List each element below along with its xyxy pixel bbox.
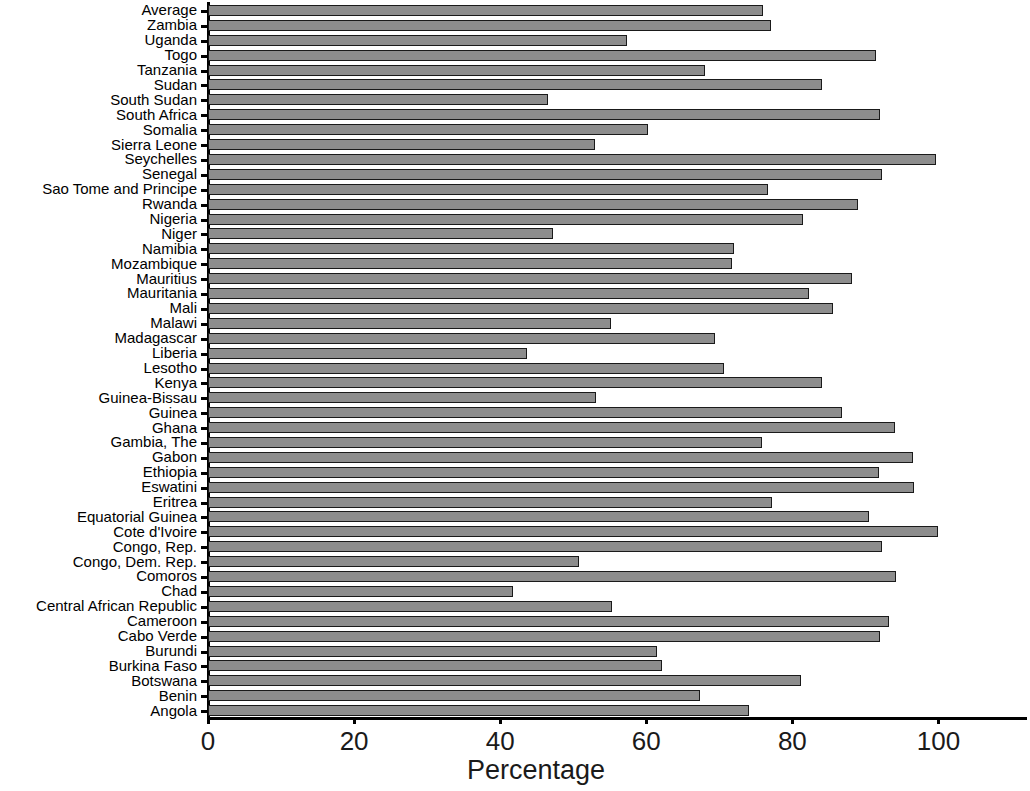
- y-axis-tick: [201, 576, 208, 579]
- y-axis-label: Mali: [169, 300, 197, 315]
- bar-row: [208, 688, 975, 703]
- y-axis-label: Mauritania: [127, 285, 197, 300]
- bar-row: [208, 241, 975, 256]
- x-axis-tick: [353, 717, 356, 724]
- y-axis-label: Senegal: [142, 166, 197, 181]
- y-axis-tick: [201, 427, 208, 430]
- y-axis-label: Eswatini: [141, 479, 197, 494]
- bar-row: [208, 286, 975, 301]
- bar: [208, 169, 882, 180]
- y-axis-tick: [201, 233, 208, 236]
- bar-row: [208, 495, 975, 510]
- y-axis-label: Mauritius: [136, 271, 197, 286]
- y-axis-tick: [201, 323, 208, 326]
- bar-row: [208, 226, 975, 241]
- y-axis-label: Togo: [164, 47, 197, 62]
- bar: [208, 646, 657, 657]
- y-axis-tick: [201, 353, 208, 356]
- bar-row: [208, 524, 975, 539]
- bar: [208, 631, 880, 642]
- bar-row: [208, 420, 975, 435]
- y-axis-label: Guinea-Bissau: [99, 390, 197, 405]
- bar-row: [208, 3, 975, 18]
- y-axis-label: Seychelles: [124, 151, 197, 166]
- x-axis-tick-label: 0: [201, 726, 215, 756]
- bar-row: [208, 375, 975, 390]
- bar-row: [208, 614, 975, 629]
- y-axis-tick: [201, 114, 208, 117]
- y-axis-tick: [201, 263, 208, 266]
- bar-row: [208, 509, 975, 524]
- bar-row: [208, 107, 975, 122]
- y-axis-label: Average: [141, 2, 197, 17]
- y-axis-label: Malawi: [150, 315, 197, 330]
- bar: [208, 348, 527, 359]
- bar: [208, 50, 876, 61]
- y-axis-label: Namibia: [142, 241, 197, 256]
- bar-row: [208, 539, 975, 554]
- bar-row: [208, 167, 975, 182]
- y-axis-tick: [201, 710, 208, 713]
- bar-row: [208, 599, 975, 614]
- bar: [208, 139, 595, 150]
- y-axis-tick: [201, 561, 208, 564]
- y-axis-tick: [201, 531, 208, 534]
- x-axis-tick-label: 20: [340, 726, 369, 756]
- y-axis-label: Guinea: [149, 405, 197, 420]
- y-axis-label: Niger: [161, 226, 197, 241]
- y-axis-label: Sudan: [154, 77, 197, 92]
- y-axis-label: South Africa: [116, 107, 197, 122]
- y-axis-tick: [201, 159, 208, 162]
- y-axis-label: Rwanda: [142, 196, 197, 211]
- y-axis-tick: [201, 695, 208, 698]
- y-axis-label: Nigeria: [149, 211, 197, 226]
- y-axis-label: Sierra Leone: [111, 137, 197, 152]
- x-axis-title: Percentage: [0, 754, 1030, 786]
- y-axis-tick: [201, 10, 208, 13]
- y-axis-label: South Sudan: [110, 92, 197, 107]
- bar-row: [208, 361, 975, 376]
- y-axis-label: Cameroon: [127, 613, 197, 628]
- y-axis-tick: [201, 397, 208, 400]
- y-axis-label: Botswana: [131, 673, 197, 688]
- bar: [208, 660, 662, 671]
- bar-row: [208, 465, 975, 480]
- y-axis-tick: [201, 516, 208, 519]
- y-axis-tick: [201, 651, 208, 654]
- bar: [208, 571, 896, 582]
- bar: [208, 124, 648, 135]
- bar-row: [208, 346, 975, 361]
- bar-row: [208, 122, 975, 137]
- bar: [208, 482, 914, 493]
- bar-row: [208, 182, 975, 197]
- bar-row: [208, 92, 975, 107]
- y-axis-tick: [201, 368, 208, 371]
- bar: [208, 5, 763, 16]
- bar: [208, 65, 705, 76]
- y-axis-label: Angola: [150, 703, 197, 718]
- y-axis-tick: [201, 174, 208, 177]
- x-axis-title-label: Percentage: [467, 754, 605, 786]
- y-axis-tick: [201, 487, 208, 490]
- bar-row: [208, 584, 975, 599]
- bar-row: [208, 33, 975, 48]
- y-axis-label: Equatorial Guinea: [77, 509, 197, 524]
- y-axis-label: Mozambique: [111, 256, 197, 271]
- x-axis-tick: [937, 717, 940, 724]
- y-axis-tick: [201, 412, 208, 415]
- bar: [208, 556, 579, 567]
- bar: [208, 199, 858, 210]
- bar: [208, 541, 882, 552]
- x-axis-tick: [645, 717, 648, 724]
- y-axis-label: Congo, Dem. Rep.: [73, 554, 197, 569]
- bar: [208, 258, 732, 269]
- y-axis-tick: [201, 621, 208, 624]
- bar: [208, 184, 768, 195]
- y-axis-tick: [201, 591, 208, 594]
- bar: [208, 94, 548, 105]
- y-axis-tick: [201, 25, 208, 28]
- bar: [208, 392, 596, 403]
- y-axis-tick: [201, 204, 208, 207]
- y-axis-tick: [201, 665, 208, 668]
- plot-area: [208, 3, 975, 718]
